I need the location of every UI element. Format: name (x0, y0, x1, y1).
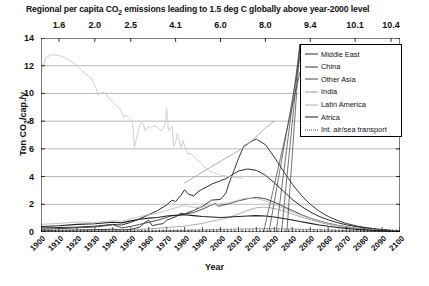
legend-item-latin-america[interactable]: Latin America (305, 98, 401, 111)
legend-leader-line (269, 56, 300, 232)
legend-swatch-icon (305, 100, 318, 109)
top-axis-tick-label: 8.0 (259, 20, 272, 30)
x-tick-label: 1960 (136, 234, 155, 253)
top-axis-tick-label: 1.6 (53, 20, 66, 30)
legend-leader-line (276, 44, 300, 232)
x-tick-label: 2020 (244, 234, 263, 253)
x-tick-label: 2030 (262, 234, 281, 253)
chart-title-pre: Regional per capita CO (26, 4, 118, 14)
legend-swatch-icon (305, 75, 318, 84)
y-tick-label: 12 (24, 61, 34, 71)
legend-label: Int. air/sea transport (321, 126, 387, 133)
legend-item-int-air-sea-transport[interactable]: Int. air/sea transport (305, 124, 401, 137)
legend-swatch-icon (305, 113, 318, 122)
top-axis-ticklabels: 1.62.02.54.16.08.09.410.110.4 (41, 20, 400, 33)
x-tick-label: 1920 (64, 234, 83, 253)
y-tick-label: 6 (29, 144, 34, 154)
x-tick-label: 2080 (352, 234, 371, 253)
top-axis-tick-label: 10.4 (382, 20, 400, 30)
x-axis-label: Year (0, 262, 429, 272)
chart-title-post: emissions leading to 1.5 deg C globally … (122, 4, 369, 14)
x-tick-label: 1980 (172, 234, 191, 253)
legend-swatch-icon (305, 88, 318, 97)
legend-swatch-icon (305, 50, 318, 59)
x-tick-label: 2060 (316, 234, 335, 253)
chart-root: Regional per capita CO2 emissions leadin… (0, 0, 429, 286)
legend-label: Other Asia (321, 76, 356, 83)
top-axis-tick-label: 6.0 (214, 20, 227, 30)
legend-swatch-icon (305, 62, 318, 71)
x-tick-label: 2090 (369, 234, 388, 253)
y-tick-label: 4 (29, 172, 34, 182)
x-tick-label: 2000 (208, 234, 227, 253)
y-tick-label: 14 (24, 33, 34, 43)
x-tick-label: 2010 (226, 234, 245, 253)
top-axis-tick-label: 2.5 (124, 20, 137, 30)
chart-title: Regional per capita CO2 emissions leadin… (26, 4, 426, 16)
x-tick-label: 2100 (387, 234, 406, 253)
series-line-high-income-historical (41, 55, 244, 179)
x-tick-label: 2070 (334, 234, 353, 253)
x-tick-label: 2050 (298, 234, 317, 253)
legend-item-middle-east[interactable]: Middle East (305, 48, 401, 61)
x-axis-ticklabels: 1900191019201930194019501960197019801990… (41, 234, 400, 264)
legend-item-china[interactable]: China (305, 61, 401, 74)
x-tick-label: 1970 (154, 234, 173, 253)
x-tick-label: 1990 (190, 234, 209, 253)
legend-leader-line (264, 72, 300, 232)
top-axis-tick-label: 4.1 (169, 20, 182, 30)
legend-item-india[interactable]: India (305, 86, 401, 99)
legend-swatch-icon (305, 125, 318, 134)
legend-label: India (321, 88, 337, 95)
y-tick-label: 0 (29, 227, 34, 237)
y-tick-label: 2 (29, 199, 34, 209)
x-tick-label: 2040 (280, 234, 299, 253)
chart-legend: Middle EastChinaOther AsiaIndiaLatin Ame… (300, 44, 402, 137)
x-tick-label: 1930 (82, 234, 101, 253)
x-tick-label: 1910 (46, 234, 65, 253)
legend-label: China (321, 63, 340, 70)
legend-label: Latin America (321, 101, 366, 108)
legend-item-other-asia[interactable]: Other Asia (305, 73, 401, 86)
y-axis-ticklabels: 02468101214 (0, 38, 39, 232)
legend-label: Africa (321, 114, 340, 121)
top-axis-tick-label: 9.4 (304, 20, 317, 30)
x-tick-label: 1940 (100, 234, 119, 253)
legend-label: Middle East (321, 51, 360, 58)
x-tick-label: 1950 (118, 234, 137, 253)
y-tick-label: 8 (29, 116, 34, 126)
series-line-convergence-trend (185, 121, 275, 183)
y-tick-label: 10 (24, 88, 34, 98)
legend-item-africa[interactable]: Africa (305, 111, 401, 124)
top-axis-tick-label: 2.0 (89, 20, 102, 30)
top-axis-tick-label: 10.1 (346, 20, 364, 30)
